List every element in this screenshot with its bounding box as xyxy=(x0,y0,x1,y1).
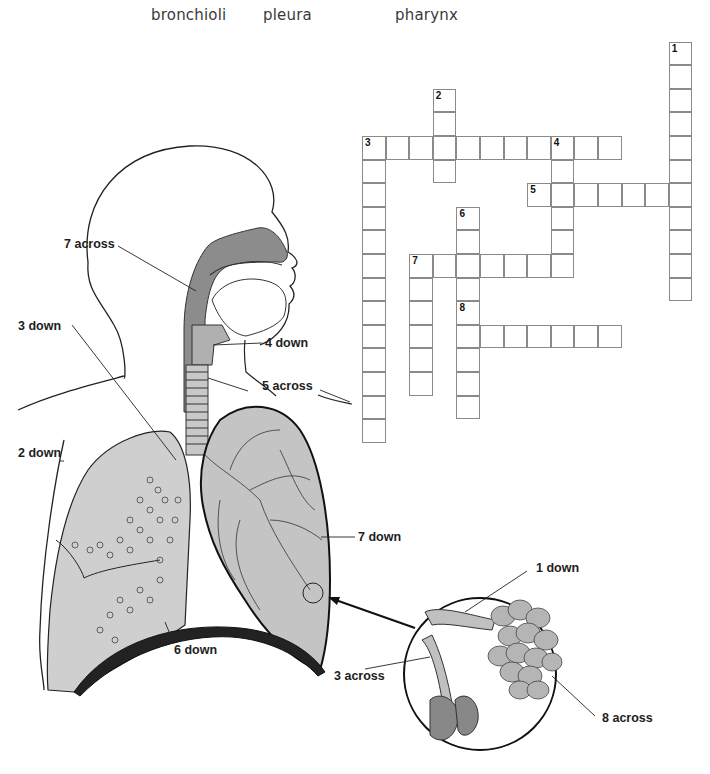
crossword-cell[interactable] xyxy=(669,65,693,89)
crossword-cell[interactable] xyxy=(551,325,575,349)
crossword-cell[interactable] xyxy=(527,325,551,349)
clue-number: 5 xyxy=(530,184,536,195)
crossword-cell[interactable] xyxy=(456,396,480,420)
crossword-cell[interactable]: 5 xyxy=(527,183,551,207)
crossword-cell[interactable] xyxy=(669,278,693,302)
label-6-down: 6 down xyxy=(174,643,217,657)
crossword-cell[interactable] xyxy=(669,183,693,207)
crossword-cell[interactable] xyxy=(456,230,480,254)
crossword-cell[interactable] xyxy=(504,254,528,278)
crossword-cell[interactable] xyxy=(456,136,480,160)
label-2-down: 2 down xyxy=(18,446,61,460)
label-5-across: 5 across xyxy=(262,379,313,393)
crossword-cell[interactable] xyxy=(362,372,386,396)
crossword-cell[interactable] xyxy=(480,136,504,160)
crossword-cell[interactable] xyxy=(574,183,598,207)
crossword-cell[interactable] xyxy=(669,136,693,160)
crossword-cell[interactable]: 2 xyxy=(433,89,457,113)
label-3-across: 3 across xyxy=(334,669,385,683)
crossword-cell[interactable] xyxy=(433,136,457,160)
crossword-cell[interactable] xyxy=(669,254,693,278)
larynx xyxy=(192,325,230,365)
crossword-cell[interactable] xyxy=(362,254,386,278)
crossword-cell[interactable] xyxy=(456,325,480,349)
crossword-cell[interactable] xyxy=(362,396,386,420)
crossword-cell[interactable] xyxy=(527,136,551,160)
crossword-cell[interactable] xyxy=(574,325,598,349)
crossword-cell[interactable] xyxy=(551,207,575,231)
crossword-cell[interactable] xyxy=(669,160,693,184)
crossword-cell[interactable] xyxy=(409,372,433,396)
shoulder-left xyxy=(18,376,124,410)
crossword-cell[interactable] xyxy=(362,183,386,207)
crossword-cell[interactable] xyxy=(527,254,551,278)
crossword-cell[interactable]: 8 xyxy=(456,301,480,325)
crossword-cell[interactable] xyxy=(551,183,575,207)
label-4-down: 4 down xyxy=(265,336,308,350)
crossword-cell[interactable] xyxy=(362,278,386,302)
clue-number: 1 xyxy=(672,43,678,54)
respiratory-system-illustration xyxy=(0,0,710,774)
crossword-cell[interactable]: 4 xyxy=(551,136,575,160)
crossword-cell[interactable] xyxy=(362,160,386,184)
crossword-cell[interactable] xyxy=(622,183,646,207)
label-1-down: 1 down xyxy=(536,561,579,575)
magnify-arrow-line xyxy=(330,598,415,628)
clue-number: 6 xyxy=(459,208,465,219)
crossword-cell[interactable] xyxy=(409,348,433,372)
crossword-cell[interactable] xyxy=(409,325,433,349)
crossword-cell[interactable] xyxy=(669,112,693,136)
crossword-cell[interactable] xyxy=(362,325,386,349)
crossword-cell[interactable] xyxy=(456,348,480,372)
crossword-cell[interactable] xyxy=(598,325,622,349)
crossword-cell[interactable] xyxy=(456,278,480,302)
crossword-cell[interactable] xyxy=(362,301,386,325)
crossword-cell[interactable] xyxy=(598,136,622,160)
clue-number: 3 xyxy=(365,137,371,148)
crossword-cell[interactable] xyxy=(669,230,693,254)
crossword-cell[interactable] xyxy=(433,254,457,278)
crossword-cell[interactable] xyxy=(409,136,433,160)
crossword-cell[interactable] xyxy=(362,207,386,231)
clue-number: 7 xyxy=(412,255,418,266)
clue-number: 4 xyxy=(554,137,560,148)
crossword-cell[interactable] xyxy=(504,325,528,349)
crossword-cell[interactable] xyxy=(409,278,433,302)
crossword-cell[interactable] xyxy=(669,89,693,113)
crossword-cell[interactable] xyxy=(551,254,575,278)
crossword-cell[interactable] xyxy=(433,160,457,184)
clue-number: 2 xyxy=(436,90,442,101)
label-7-across: 7 across xyxy=(64,237,115,251)
crossword-cell[interactable]: 7 xyxy=(409,254,433,278)
crossword-cell[interactable] xyxy=(551,160,575,184)
crossword-cell[interactable] xyxy=(574,136,598,160)
crossword-cell[interactable] xyxy=(456,254,480,278)
crossword-cell[interactable] xyxy=(669,207,693,231)
crossword-cell[interactable] xyxy=(598,183,622,207)
crossword-cell[interactable] xyxy=(480,325,504,349)
crossword-cell[interactable] xyxy=(362,348,386,372)
crossword-cell[interactable]: 6 xyxy=(456,207,480,231)
label-8-across: 8 across xyxy=(602,711,653,725)
crossword-cell[interactable]: 3 xyxy=(362,136,386,160)
clue-number: 8 xyxy=(459,302,465,313)
crossword-cell[interactable] xyxy=(551,230,575,254)
trachea xyxy=(186,365,208,455)
label-3-down: 3 down xyxy=(18,319,61,333)
crossword-cell[interactable]: 1 xyxy=(669,42,693,66)
crossword-cell[interactable] xyxy=(433,112,457,136)
back-of-neck xyxy=(88,262,125,378)
crossword-cell[interactable] xyxy=(386,136,410,160)
crossword-cell[interactable] xyxy=(362,419,386,443)
crossword-cell[interactable] xyxy=(645,183,669,207)
crossword-cell[interactable] xyxy=(409,301,433,325)
crossword-cell[interactable] xyxy=(362,230,386,254)
crossword-cell[interactable] xyxy=(480,254,504,278)
crossword-cell[interactable] xyxy=(504,136,528,160)
crossword-cell[interactable] xyxy=(456,372,480,396)
label-7-down: 7 down xyxy=(358,530,401,544)
